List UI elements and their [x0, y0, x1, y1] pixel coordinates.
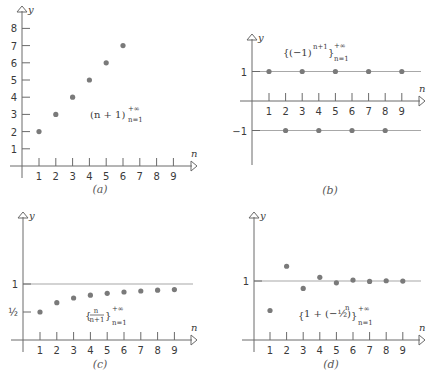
svg-text:n+1: n+1 [90, 316, 105, 324]
data-point [284, 264, 289, 269]
data-point [266, 69, 271, 74]
svg-text:n=1: n=1 [128, 116, 143, 124]
x-tick-label: 9 [400, 345, 406, 356]
svg-text:n+1: n+1 [313, 43, 328, 51]
svg-text:}: } [105, 310, 111, 321]
y-tick-label: 7 [11, 41, 17, 52]
x-tick-label: 2 [54, 345, 60, 356]
y-tick-label: 1 [11, 144, 17, 155]
x-tick-label: 9 [171, 345, 177, 356]
x-tick-label: 3 [299, 106, 305, 117]
data-point [334, 280, 339, 285]
svg-text:+∞: +∞ [358, 305, 370, 313]
svg-text:(−1): (−1) [289, 47, 312, 58]
sequence-figure: yn12345678912345678(n + 1)+∞n=1(a)yn1234… [0, 0, 438, 379]
x-axis-label: n [419, 83, 425, 94]
panel-caption: (a) [92, 183, 107, 196]
svg-text:+∞: +∞ [334, 42, 346, 50]
data-point [36, 129, 41, 134]
data-point [37, 309, 42, 314]
x-tick-label: 7 [365, 106, 371, 117]
y-tick-label: 8 [11, 23, 17, 34]
y-axis-label: y [28, 210, 35, 221]
svg-text:n: n [94, 307, 99, 315]
x-tick-label: 4 [316, 106, 322, 117]
data-point [267, 308, 272, 313]
data-point [350, 277, 355, 282]
x-tick-label: 1 [36, 171, 42, 182]
x-tick-label: 3 [69, 171, 75, 182]
data-point [400, 279, 405, 284]
data-point [172, 287, 177, 292]
data-point [383, 128, 388, 133]
svg-text:n=1: n=1 [112, 319, 127, 327]
data-point [87, 77, 92, 82]
x-tick-label: 6 [121, 345, 127, 356]
svg-text:n=1: n=1 [334, 55, 349, 63]
data-point [384, 278, 389, 283]
y-axis-label: y [259, 210, 266, 221]
x-tick-label: 2 [53, 171, 59, 182]
sequence-formula: {1 + (−½)n}+∞n=1 [298, 304, 373, 327]
panel-caption: (b) [322, 184, 338, 197]
data-point [283, 128, 288, 133]
x-axis-label: n [191, 148, 197, 159]
data-point [53, 112, 58, 117]
data-point [120, 43, 125, 48]
x-tick-label: 5 [333, 345, 339, 356]
data-point [367, 279, 372, 284]
panel-c: yn1234567891½{nn+1}+∞n=1(c) [8, 210, 197, 371]
y-tick-label: 1 [241, 67, 247, 78]
y-tick-label: 6 [11, 58, 17, 69]
y-tick-label: −1 [232, 126, 247, 137]
panel-caption: (c) [93, 358, 108, 371]
panel-caption: (d) [323, 358, 339, 371]
panel-a: yn12345678912345678(n + 1)+∞n=1(a) [10, 4, 197, 196]
x-tick-label: 9 [399, 106, 405, 117]
x-tick-label: 6 [120, 171, 126, 182]
x-tick-label: 3 [70, 345, 76, 356]
x-axis-label: n [191, 322, 197, 333]
data-point [366, 69, 371, 74]
data-point [104, 60, 109, 65]
x-tick-label: 4 [87, 345, 93, 356]
x-tick-label: 8 [154, 345, 160, 356]
x-tick-label: 5 [332, 106, 338, 117]
x-tick-label: 2 [283, 345, 289, 356]
x-tick-label: 3 [300, 345, 306, 356]
x-tick-label: 4 [86, 171, 92, 182]
y-tick-label: 1 [12, 279, 18, 290]
svg-text:n=1: n=1 [358, 319, 373, 327]
data-point [399, 69, 404, 74]
x-tick-label: 7 [138, 345, 144, 356]
y-tick-label: 2 [11, 127, 17, 138]
y-tick-label: 3 [11, 109, 17, 120]
y-tick-label: 5 [11, 75, 17, 86]
data-point [54, 300, 59, 305]
data-point [70, 95, 75, 100]
x-tick-label: 5 [104, 345, 110, 356]
x-tick-label: 1 [37, 345, 43, 356]
sequence-formula: (n + 1)+∞n=1 [90, 105, 143, 124]
x-tick-label: 8 [153, 171, 159, 182]
data-point [105, 291, 110, 296]
data-point [138, 288, 143, 293]
data-point [317, 275, 322, 280]
x-tick-label: 7 [366, 345, 372, 356]
x-tick-label: 2 [282, 106, 288, 117]
x-tick-label: 6 [349, 106, 355, 117]
y-tick-label: 1 [243, 276, 249, 287]
data-point [71, 295, 76, 300]
svg-text:}: } [351, 310, 357, 321]
x-tick-label: 6 [350, 345, 356, 356]
svg-text:+∞: +∞ [112, 305, 124, 313]
x-tick-label: 7 [137, 171, 143, 182]
data-point [301, 286, 306, 291]
data-point [349, 128, 354, 133]
panel-b: yn1234567891−1{(−1)n+1}+∞n=1(b) [232, 32, 425, 197]
x-tick-label: 8 [382, 106, 388, 117]
x-tick-label: 1 [266, 106, 272, 117]
x-tick-label: 1 [267, 345, 273, 356]
data-point [333, 69, 338, 74]
x-axis-label: n [419, 322, 425, 333]
